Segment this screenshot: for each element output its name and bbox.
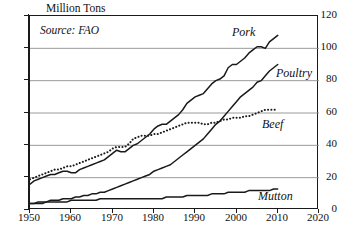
x-tick-label: 2020 (298, 212, 338, 223)
series-line-pork (30, 35, 278, 184)
x-tick-label: 1970 (92, 212, 132, 223)
x-tick-label: 1980 (133, 212, 173, 223)
series-line-mutton (30, 189, 278, 204)
plot-area (29, 15, 318, 209)
y-axis-title: Million Tons (46, 2, 105, 14)
x-tick-label: 1990 (174, 212, 214, 223)
x-tick-label: 2010 (257, 212, 297, 223)
gridlines (30, 48, 319, 177)
plot-svg (30, 16, 319, 210)
series-lines (30, 35, 278, 203)
x-tick-label: 1960 (50, 212, 90, 223)
x-tick-label: 2000 (216, 212, 256, 223)
x-tick-label: 1950 (9, 212, 49, 223)
series-line-beef (30, 110, 278, 180)
